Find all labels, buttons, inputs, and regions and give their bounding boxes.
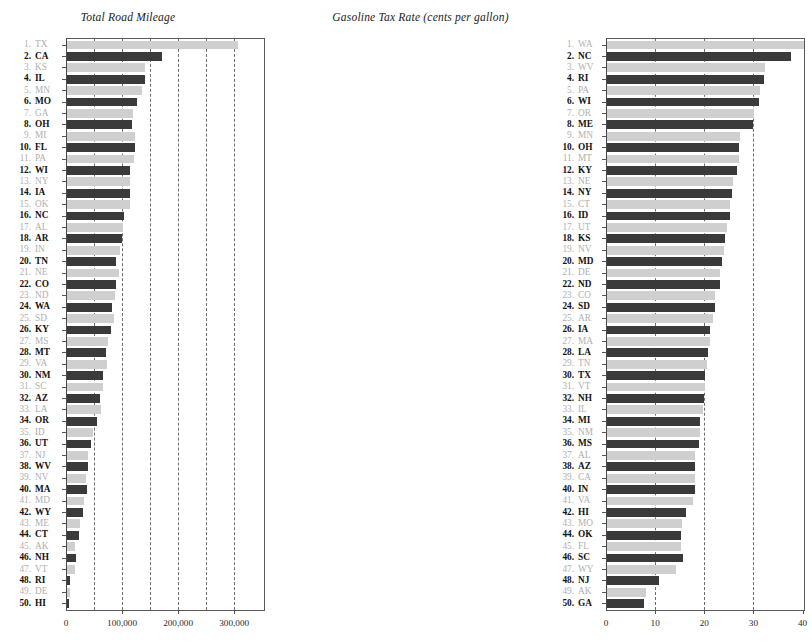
bar xyxy=(67,223,123,232)
bar xyxy=(607,383,705,392)
row-rank: 46. xyxy=(552,552,574,563)
axis-tick-mark xyxy=(62,261,66,262)
axis-tick-mark xyxy=(62,227,66,228)
axis-tick-mark xyxy=(62,204,66,205)
bar xyxy=(607,109,754,118)
bar-row: 35.NM xyxy=(280,427,812,438)
row-state-abbreviation: FL xyxy=(35,142,61,153)
bar xyxy=(67,120,132,129)
axis-tick-mark xyxy=(62,466,66,467)
bar-row: 42.HI xyxy=(280,507,812,518)
bar xyxy=(67,177,130,186)
bar xyxy=(607,41,804,50)
row-state-abbreviation: SC xyxy=(35,381,61,392)
bar xyxy=(607,155,739,164)
axis-tick-mark xyxy=(602,535,606,536)
row-state-abbreviation: NH xyxy=(35,552,61,563)
axis-tick-mark xyxy=(602,124,606,125)
row-rank: 48. xyxy=(9,575,31,586)
row-rank: 12. xyxy=(552,165,574,176)
bar xyxy=(67,337,108,346)
bar xyxy=(67,474,86,483)
bar xyxy=(607,257,722,266)
bar xyxy=(67,508,83,517)
axis-tick-mark xyxy=(602,352,606,353)
axis-tick-mark xyxy=(602,79,606,80)
bar xyxy=(67,383,103,392)
row-rank: 41. xyxy=(9,495,31,506)
bar-row: 40.IN xyxy=(280,484,812,495)
bar xyxy=(67,303,112,312)
bar-row: 32.NH xyxy=(280,393,812,404)
bar xyxy=(67,212,124,221)
row-state-abbreviation: PA xyxy=(578,85,604,96)
axis-tick-mark xyxy=(62,352,66,353)
row-rank: 50. xyxy=(552,598,574,609)
bar-row: 9.MN xyxy=(280,131,812,142)
row-rank: 27. xyxy=(9,336,31,347)
bar xyxy=(67,371,103,380)
bar-row: 50.GA xyxy=(280,598,812,609)
bar xyxy=(607,599,644,608)
row-state-abbreviation: VA xyxy=(35,358,61,369)
bar xyxy=(67,565,75,574)
row-rank: 2. xyxy=(552,51,574,62)
row-state-abbreviation: OH xyxy=(35,119,61,130)
row-state-abbreviation: IN xyxy=(578,484,604,495)
axis-tick-mark xyxy=(602,455,606,456)
axis-tick-mark xyxy=(62,79,66,80)
bar xyxy=(67,326,111,335)
row-state-abbreviation: IA xyxy=(35,187,61,198)
axis-tick-mark xyxy=(62,603,66,604)
axis-tick-mark xyxy=(602,295,606,296)
row-state-abbreviation: WY xyxy=(578,564,604,575)
bar-row: 48.NJ xyxy=(280,575,812,586)
axis-tick-mark xyxy=(602,478,606,479)
row-rank: 49. xyxy=(552,586,574,597)
axis-tick-mark xyxy=(602,193,606,194)
bar-row: 29.TN xyxy=(280,359,812,370)
row-rank: 19. xyxy=(552,244,574,255)
bar xyxy=(67,291,115,300)
row-rank: 37. xyxy=(9,450,31,461)
row-rank: 3. xyxy=(552,62,574,73)
row-state-abbreviation: HI xyxy=(578,507,604,518)
bar xyxy=(607,360,707,369)
bar xyxy=(607,542,681,551)
bar xyxy=(67,143,135,152)
row-rank: 38. xyxy=(552,461,574,472)
x-axis-tick xyxy=(122,611,123,614)
axis-tick-mark xyxy=(62,136,66,137)
row-state-abbreviation: WV xyxy=(35,461,61,472)
row-state-abbreviation: NC xyxy=(578,51,604,62)
row-rank: 1. xyxy=(9,39,31,50)
row-rank: 18. xyxy=(9,233,31,244)
axis-tick-mark xyxy=(62,159,66,160)
row-state-abbreviation: AZ xyxy=(578,461,604,472)
axis-tick-mark xyxy=(602,273,606,274)
row-state-abbreviation: VA xyxy=(578,495,604,506)
row-state-abbreviation: MS xyxy=(578,438,604,449)
bar-row: 26.IA xyxy=(280,325,812,336)
bar-row: 45.FL xyxy=(280,541,812,552)
row-state-abbreviation: TX xyxy=(578,370,604,381)
bar xyxy=(67,485,87,494)
axis-tick-mark xyxy=(62,558,66,559)
bar xyxy=(67,246,120,255)
axis-tick-mark xyxy=(62,580,66,581)
row-rank: 17. xyxy=(552,222,574,233)
bar xyxy=(607,440,699,449)
bar xyxy=(67,63,145,72)
row-state-abbreviation: KY xyxy=(35,324,61,335)
bar-row: 36.MS xyxy=(280,439,812,450)
chart-left: 1.TX2.CA3.KS4.IL5.MN6.MO7.GA8.OH9.MI10.F… xyxy=(0,38,280,613)
axis-tick-mark xyxy=(602,501,606,502)
axis-tick-mark xyxy=(62,113,66,114)
bar-row: 5.PA xyxy=(280,85,812,96)
axis-tick-mark xyxy=(62,523,66,524)
bar-row: 4.RI xyxy=(280,74,812,85)
row-rank: 33. xyxy=(9,404,31,415)
row-state-abbreviation: OH xyxy=(578,142,604,153)
bar xyxy=(67,394,100,403)
row-state-abbreviation: MI xyxy=(578,415,604,426)
